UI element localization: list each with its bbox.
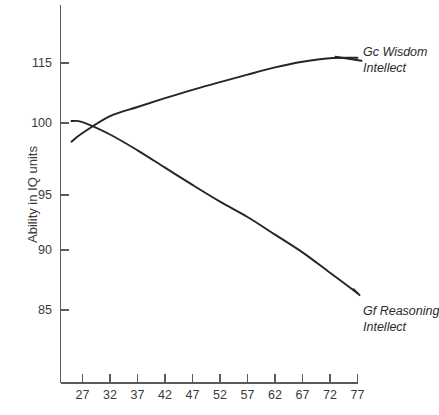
series-label-gf-line1: Gf Reasoning bbox=[363, 304, 439, 320]
series-label-gf: Gf Reasoning Intellect bbox=[363, 304, 439, 335]
series-label-gc: Gc Wisdom Intellect bbox=[363, 45, 427, 76]
x-axis-ticks bbox=[83, 374, 358, 382]
series-label-gf-line2: Intellect bbox=[363, 320, 439, 336]
axes-group bbox=[61, 5, 359, 383]
leader-line-gf bbox=[354, 289, 360, 295]
y-axis-title: Ability in IQ units bbox=[25, 105, 40, 285]
y-axis-ticks bbox=[61, 63, 69, 310]
series-label-gc-line2: Intellect bbox=[363, 61, 427, 77]
chart-figure: 859095100115 2732374247525762677277 Abil… bbox=[0, 0, 439, 415]
x-tick-label: 77 bbox=[338, 389, 378, 402]
series-line-gf bbox=[72, 121, 358, 293]
y-tick-label: 85 bbox=[8, 304, 52, 317]
series-label-gc-line1: Gc Wisdom bbox=[363, 45, 427, 61]
y-tick-label: 115 bbox=[8, 57, 52, 70]
series-line-gc bbox=[72, 58, 358, 142]
